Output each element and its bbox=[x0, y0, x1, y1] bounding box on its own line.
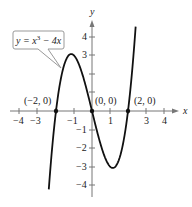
y-tick-label: −1 bbox=[76, 124, 87, 135]
point-label: (2, 0) bbox=[134, 95, 156, 107]
x-tick-label: 4 bbox=[162, 115, 167, 126]
x-tick-label: 3 bbox=[144, 115, 149, 126]
function-graph: x y −4 −3 −1 1 3 4 4 3 −1 −2 −3 −4 (−2, … bbox=[0, 0, 192, 207]
point-label: (−2, 0) bbox=[24, 95, 51, 107]
x-tick-label: −4 bbox=[13, 115, 24, 126]
y-tick-label: −4 bbox=[76, 179, 87, 190]
y-axis-arrow-icon bbox=[90, 20, 95, 27]
point-2-0 bbox=[126, 109, 130, 113]
y-axis-label: y bbox=[89, 6, 95, 17]
point-neg2-0 bbox=[54, 109, 58, 113]
x-tick-label: −3 bbox=[30, 115, 41, 126]
x-axis-label: x bbox=[182, 105, 188, 116]
point-label: (0, 0) bbox=[95, 95, 117, 107]
x-axis-arrow-icon bbox=[172, 109, 179, 114]
x-tick-label: 1 bbox=[108, 115, 113, 126]
graph-svg: x y −4 −3 −1 1 3 4 4 3 −1 −2 −3 −4 (−2, … bbox=[0, 0, 192, 207]
point-origin bbox=[90, 109, 94, 113]
callout-rest: − 4x bbox=[40, 35, 62, 46]
callout-text: y = x bbox=[15, 35, 37, 46]
y-tick-label: 3 bbox=[82, 49, 87, 60]
y-tick-label: −2 bbox=[76, 142, 87, 153]
y-tick-label: −3 bbox=[76, 161, 87, 172]
y-tick-label: 4 bbox=[82, 31, 87, 42]
